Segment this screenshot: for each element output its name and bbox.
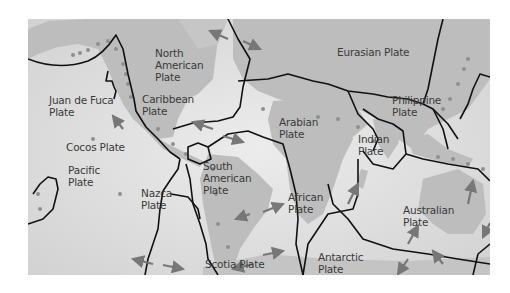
label-arabian-plate: Arabian Plate <box>279 116 318 140</box>
label-nazca-plate: Nazca Plate <box>141 187 172 211</box>
label-cocos-plate: Cocos Plate <box>66 141 125 153</box>
tectonic-plates-map: North American Plate Eurasian Plate Juan… <box>28 19 490 275</box>
label-scotia-plate: Scotia Plate <box>205 258 265 270</box>
label-juan-de-fuca-plate: Juan de Fuca Plate <box>49 94 114 118</box>
label-australian-plate: Australian Plate <box>403 204 454 228</box>
label-north-american-plate: North American Plate <box>155 47 203 83</box>
label-antarctic-plate: Antarctic Plate <box>318 251 363 275</box>
label-pacific-plate: Pacific Plate <box>68 164 100 188</box>
label-indian-plate: Indian Plate <box>358 133 389 157</box>
label-african-plate: African Plate <box>288 191 323 215</box>
label-eurasian-plate: Eurasian Plate <box>337 46 409 58</box>
label-south-american-plate: South American Plate <box>203 160 251 196</box>
label-philippine-plate: Philippine Plate <box>392 94 441 118</box>
label-caribbean-plate: Caribbean Plate <box>142 93 194 117</box>
